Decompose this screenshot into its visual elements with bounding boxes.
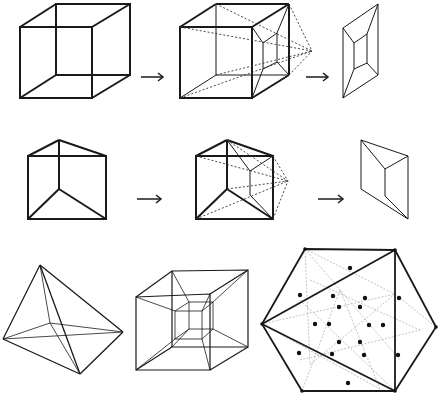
simplex-projection [3,265,123,374]
600cell-projection [260,247,438,393]
arrow-icon [318,195,343,203]
arrow-icon [141,73,163,81]
prism-shadow [361,140,408,219]
arrow-icon [306,73,328,81]
arrow-icon [137,195,161,203]
prism-projection [196,140,288,219]
tesseract-projection [136,270,248,370]
diagram-canvas [0,0,440,407]
triangular-prism [28,140,106,219]
cube-shadow [343,4,378,98]
cube [20,4,130,98]
cube-projection [180,4,312,98]
